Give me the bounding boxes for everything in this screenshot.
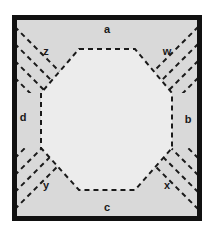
label-y: y bbox=[43, 179, 50, 191]
label-b: b bbox=[185, 113, 192, 125]
label-z: z bbox=[43, 45, 49, 57]
label-x: x bbox=[164, 179, 171, 191]
label-d: d bbox=[20, 111, 27, 123]
label-w: w bbox=[162, 45, 172, 57]
label-c: c bbox=[104, 201, 110, 213]
geometry-diagram: a b c d w x y z bbox=[0, 0, 213, 235]
label-a: a bbox=[104, 23, 111, 35]
figure-container: a b c d w x y z bbox=[0, 0, 213, 235]
